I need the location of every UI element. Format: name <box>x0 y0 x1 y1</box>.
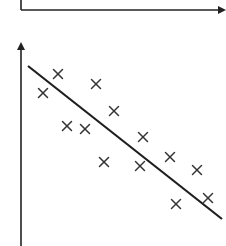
x-marker-icon <box>139 133 148 142</box>
x-marker-icon <box>193 166 202 175</box>
x-marker-icon <box>81 125 90 134</box>
x-marker-icon <box>166 153 175 162</box>
x-marker-icon <box>172 200 181 209</box>
x-marker-icon <box>54 70 63 79</box>
x-marker-icon <box>92 80 101 89</box>
scatter-chart <box>21 44 222 246</box>
x-marker-icon <box>204 194 213 203</box>
data-markers <box>39 70 213 209</box>
regression-line <box>28 66 222 219</box>
x-marker-icon <box>100 158 109 167</box>
chart-canvas <box>0 0 226 246</box>
x-marker-icon <box>110 107 119 116</box>
x-marker-icon <box>136 162 145 171</box>
x-marker-icon <box>39 89 48 98</box>
x-marker-icon <box>63 122 72 131</box>
top-chart <box>21 0 224 10</box>
